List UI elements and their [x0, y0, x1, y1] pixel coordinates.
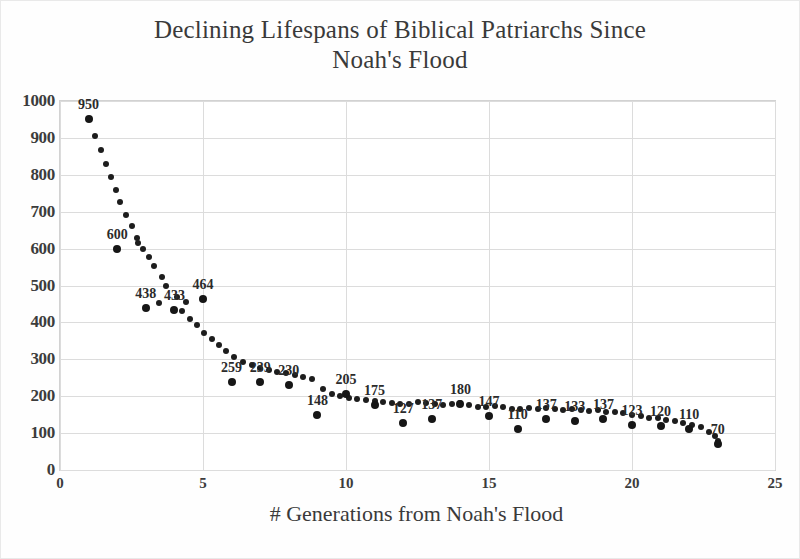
trendline-point — [672, 418, 678, 424]
data-label: 205 — [336, 372, 357, 388]
trendline-point — [223, 348, 229, 354]
data-point — [542, 415, 550, 423]
trendline-point — [103, 161, 109, 167]
gridline-horizontal — [60, 175, 775, 176]
y-axis-tick-labels: 10009008007006005004003002001000 — [1, 100, 55, 471]
data-point — [256, 378, 264, 386]
data-point — [714, 440, 722, 448]
data-point — [313, 411, 321, 419]
y-axis-tick-label: 200 — [3, 386, 55, 406]
gridline-horizontal — [60, 101, 775, 102]
trendline-point — [309, 376, 315, 382]
data-point — [142, 304, 150, 312]
y-axis-tick-label: 600 — [3, 239, 55, 259]
trendline-point — [466, 402, 472, 408]
y-axis-tick-label: 1000 — [3, 91, 55, 111]
data-point — [657, 422, 665, 430]
chart-title: Declining Lifespans of Biblical Patriarc… — [1, 15, 799, 75]
trendline-point — [92, 133, 98, 139]
data-label: 600 — [107, 227, 128, 243]
data-point — [399, 419, 407, 427]
x-axis-tick-label: 25 — [768, 475, 783, 492]
data-label: 110 — [679, 407, 699, 423]
trendline-point — [179, 308, 185, 314]
data-point — [485, 412, 493, 420]
data-point — [371, 401, 379, 409]
data-point — [599, 415, 607, 423]
trendline-point — [194, 322, 200, 328]
x-axis-title: # Generations from Noah's Flood — [59, 501, 774, 527]
data-label: 137 — [421, 397, 442, 413]
trendline-point — [698, 424, 704, 430]
trendline-point — [500, 404, 506, 410]
trendline-point — [187, 316, 193, 322]
data-point — [456, 400, 464, 408]
data-point — [571, 417, 579, 425]
data-label: 137 — [593, 397, 614, 413]
data-label: 133 — [564, 399, 585, 415]
data-label: 110 — [507, 407, 527, 423]
data-label: 239 — [250, 360, 271, 376]
gridline-horizontal — [60, 470, 775, 471]
plot-area: 9506004384334642592392301482051751271371… — [59, 100, 776, 471]
data-label: 147 — [479, 394, 500, 410]
y-axis-tick-label: 500 — [3, 276, 55, 296]
chart-frame: Declining Lifespans of Biblical Patriarc… — [0, 0, 800, 559]
data-point — [628, 421, 636, 429]
y-axis-tick-label: 0 — [3, 460, 55, 480]
trendline-point — [140, 246, 146, 252]
trendline-point — [586, 408, 592, 414]
data-point — [113, 245, 121, 253]
trendline-point — [151, 263, 157, 269]
trendline-point — [354, 396, 360, 402]
data-label: 137 — [536, 397, 557, 413]
y-axis-tick-label: 100 — [3, 423, 55, 443]
trendline-point — [201, 330, 207, 336]
gridline-horizontal — [60, 359, 775, 360]
gridline-horizontal — [60, 433, 775, 434]
x-axis-tick-labels: 0510152025 — [59, 475, 776, 499]
gridline-horizontal — [60, 212, 775, 213]
trendline-point — [117, 199, 123, 205]
data-label: 175 — [364, 383, 385, 399]
y-axis-tick-label: 800 — [3, 165, 55, 185]
data-point — [228, 378, 236, 386]
trendline-point — [159, 274, 165, 280]
x-axis-tick-label: 0 — [56, 475, 64, 492]
data-label: 120 — [650, 404, 671, 420]
x-axis-tick-label: 15 — [482, 475, 497, 492]
y-axis-tick-label: 300 — [3, 349, 55, 369]
data-label: 70 — [711, 422, 725, 438]
trendline-point — [329, 391, 335, 397]
gridline-horizontal — [60, 322, 775, 323]
x-axis-tick-label: 10 — [339, 475, 354, 492]
data-point — [428, 415, 436, 423]
x-axis-tick-label: 5 — [199, 475, 207, 492]
gridline-vertical — [775, 101, 776, 470]
data-point — [514, 425, 522, 433]
data-label: 433 — [164, 288, 185, 304]
trendline-point — [216, 342, 222, 348]
data-label: 148 — [307, 393, 328, 409]
data-label: 438 — [135, 286, 156, 302]
trendline-point — [146, 254, 152, 260]
data-point — [85, 115, 93, 123]
x-axis-tick-label: 20 — [625, 475, 640, 492]
trendline-point — [380, 399, 386, 405]
trendline-point — [113, 187, 119, 193]
trendline-point — [449, 401, 455, 407]
trendline-point — [300, 374, 306, 380]
gridline-horizontal — [60, 249, 775, 250]
data-point — [199, 295, 207, 303]
data-point — [685, 425, 693, 433]
data-label: 259 — [221, 360, 242, 376]
trendline-point — [123, 212, 129, 218]
data-label: 230 — [278, 363, 299, 379]
y-axis-tick-label: 400 — [3, 312, 55, 332]
trendline-point — [156, 300, 162, 306]
data-label: 127 — [393, 401, 414, 417]
gridline-horizontal — [60, 138, 775, 139]
trendline-point — [129, 223, 135, 229]
data-label: 123 — [622, 403, 643, 419]
trendline-point — [108, 174, 114, 180]
